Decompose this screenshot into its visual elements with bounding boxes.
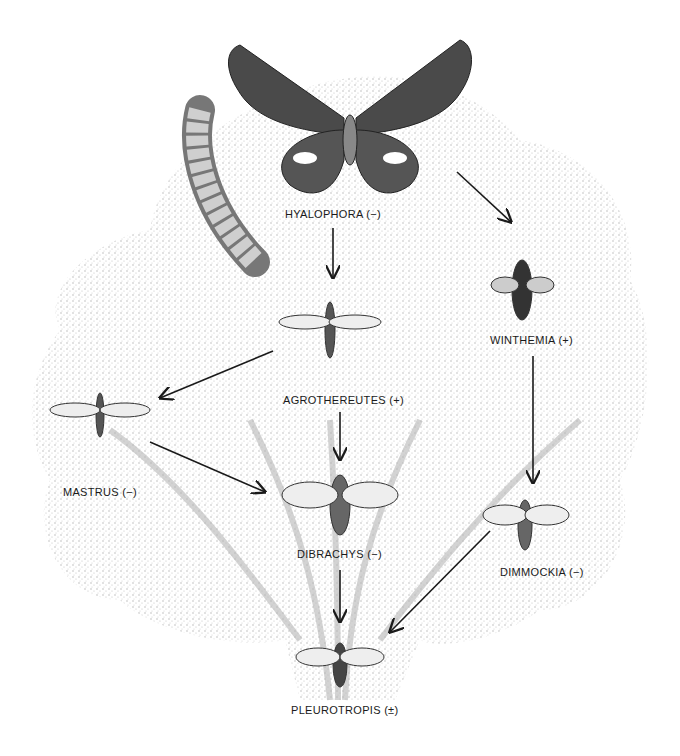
label-winthemia: WINTHEMIA (+) — [490, 334, 573, 346]
label-dimmockia: DIMMOCKIA (−) — [500, 566, 584, 578]
label-mastrus: MASTRUS (−) — [63, 486, 137, 498]
label-hyalophora: HYALOPHORA (−) — [285, 208, 381, 220]
label-pleurotropis: PLEUROTROPIS (±) — [291, 704, 398, 716]
diagram-canvas — [0, 0, 680, 756]
label-dibrachys: DIBRACHYS (−) — [297, 548, 382, 560]
food-web-diagram: HYALOPHORA (−) AGROTHEREUTES (+) WINTHEM… — [0, 0, 680, 756]
label-agrothereutes: AGROTHEREUTES (+) — [283, 394, 404, 406]
